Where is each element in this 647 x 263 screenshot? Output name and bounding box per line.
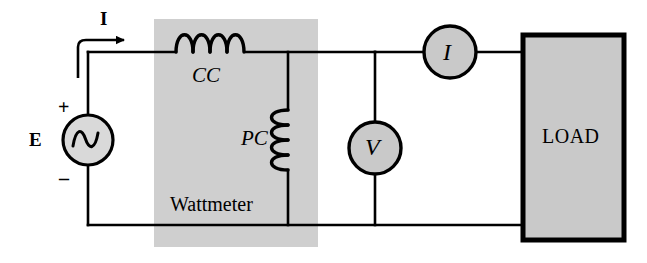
- source-minus-label: –: [59, 168, 69, 188]
- current-direction-arrow: [78, 40, 124, 78]
- circuit-diagram-figure: I E + – CC PC Wattmeter I V LOAD: [0, 0, 647, 263]
- voltmeter-label: V: [365, 135, 380, 159]
- wattmeter-label: Wattmeter: [170, 194, 253, 214]
- load-label: LOAD: [542, 126, 600, 146]
- current-arrow-label: I: [100, 9, 107, 28]
- ammeter-label: I: [443, 40, 451, 64]
- current-coil-label: CC: [192, 65, 220, 86]
- source-plus-label: +: [58, 97, 69, 117]
- potential-coil-label: PC: [241, 128, 268, 149]
- source-label: E: [29, 130, 42, 149]
- ac-source-circle: [63, 115, 113, 165]
